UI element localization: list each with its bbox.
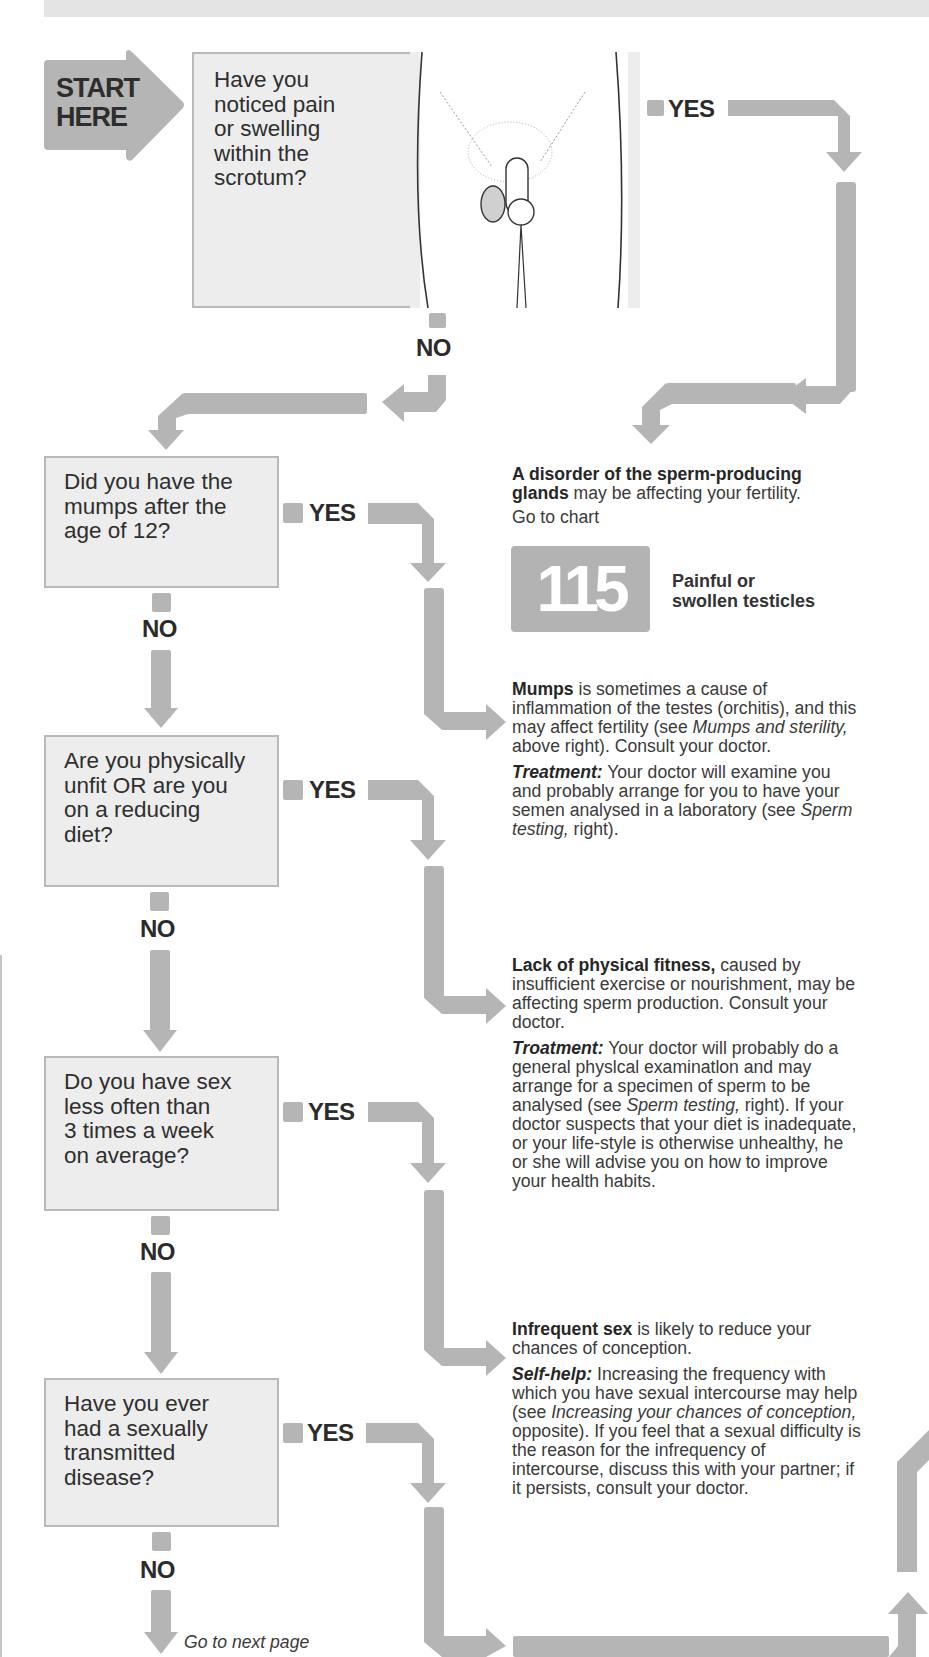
question-box-sex-frequency: Do you have sex less often than 3 times … xyxy=(44,1056,279,1211)
chart-reference-title[interactable]: Painful or swollen testicles xyxy=(672,571,815,611)
result-fitness: Lack of physical fitness, caused by insu… xyxy=(512,956,862,1198)
yes-label-q2: YES xyxy=(309,776,356,804)
question-line: age of 12? xyxy=(64,519,277,544)
question-line: disease? xyxy=(64,1466,277,1491)
no-label-q1: NO xyxy=(142,615,177,643)
result-text: may be affecting your fertility. xyxy=(569,483,801,503)
question-line: mumps after the xyxy=(64,495,277,520)
question-line: had a sexually xyxy=(64,1417,277,1442)
question-text: Have you noticed pain or swelling within… xyxy=(214,68,374,191)
result-heading: Infrequent sex xyxy=(512,1319,632,1339)
chart-title-line: swollen testicles xyxy=(672,591,815,611)
result-heading: Mumps xyxy=(512,679,574,699)
yes-label-q1: YES xyxy=(309,499,356,527)
no-label-q0: NO xyxy=(416,334,451,362)
question-line: within the xyxy=(214,142,374,167)
question-box-fitness: Are you physically unfit OR are you on a… xyxy=(44,735,279,887)
yes-label-q3: YES xyxy=(308,1098,355,1126)
question-line: scrotum? xyxy=(214,166,374,191)
start-line-2: HERE xyxy=(56,103,139,132)
chart-title-line: Painful or xyxy=(672,571,815,591)
question-box-mumps: Did you have the mumps after the age of … xyxy=(44,456,279,588)
anatomy-illustration-icon xyxy=(410,52,640,308)
go-to-chart-label: Go to chart xyxy=(512,507,599,528)
chart-number-badge[interactable]: 115 xyxy=(511,546,650,632)
result-infrequent-sex: Infrequent sex is likely to reduce your … xyxy=(512,1320,862,1505)
result-mumps: Mumps is sometimes a cause of inflammati… xyxy=(512,680,862,846)
question-line: on average? xyxy=(64,1144,277,1169)
cross-reference-link[interactable]: Sperm testing, xyxy=(626,1095,739,1115)
question-line: 3 times a week xyxy=(64,1119,277,1144)
question-line: Have you ever xyxy=(64,1392,277,1417)
self-help-label: Self-help: xyxy=(512,1364,592,1384)
question-line: Are you physically xyxy=(64,749,277,774)
question-line: on a reducing xyxy=(64,798,277,823)
start-here-label: START HERE xyxy=(56,74,139,132)
question-line: Did you have the xyxy=(64,470,277,495)
question-line: noticed pain xyxy=(214,93,374,118)
question-line: less often than xyxy=(64,1095,277,1120)
treatment-label: Troatment: xyxy=(512,1038,604,1058)
result-disorder: A disorder of the sperm-producing glands… xyxy=(512,465,862,510)
question-box-std: Have you ever had a sexually transmitted… xyxy=(44,1378,279,1527)
treatment-label: Treatment: xyxy=(512,762,603,782)
no-label-q4: NO xyxy=(140,1556,175,1584)
question-line: transmitted xyxy=(64,1441,277,1466)
yes-label-q0: YES xyxy=(668,95,715,123)
treatment-text: right). xyxy=(569,819,619,839)
cross-reference-link[interactable]: Increasing your chances of conception, xyxy=(551,1402,856,1422)
question-line: or swelling xyxy=(214,117,374,142)
no-label-q2: NO xyxy=(140,915,175,943)
result-text: above right). Consult your doctor. xyxy=(512,736,771,756)
question-line: unfit OR are you xyxy=(64,774,277,799)
question-line: Have you xyxy=(214,68,374,93)
cross-reference-link[interactable]: Mumps and sterility, xyxy=(693,717,848,737)
yes-label-q4: YES xyxy=(307,1419,354,1447)
question-line: Do you have sex xyxy=(64,1070,277,1095)
self-help-text: opposite). If you feel that a sexual dif… xyxy=(512,1421,861,1498)
go-to-next-page-link[interactable]: Go to next page xyxy=(184,1632,309,1653)
result-heading: Lack of physical fitness, xyxy=(512,955,715,975)
no-label-q3: NO xyxy=(140,1238,175,1266)
start-line-1: START xyxy=(56,74,139,103)
question-line: diet? xyxy=(64,823,277,848)
